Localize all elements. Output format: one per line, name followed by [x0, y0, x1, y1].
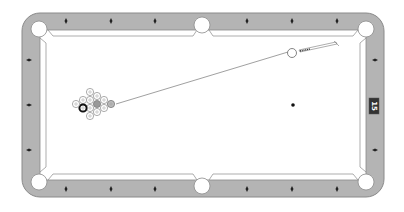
- pool-table[interactable]: 15: [0, 0, 404, 212]
- object-ball: [86, 88, 93, 95]
- pocket-bottom-right: [358, 174, 374, 190]
- object-ball: [93, 108, 100, 115]
- object-ball: [93, 92, 100, 99]
- pocket-bottom-left: [31, 174, 47, 190]
- head-ball: [107, 100, 114, 107]
- object-ball: [100, 96, 107, 103]
- object-ball: [86, 112, 93, 119]
- spot-marker: [291, 103, 295, 107]
- pocket-top-left: [31, 21, 47, 37]
- rail-badge: 15: [369, 98, 379, 114]
- object-ball: [72, 100, 79, 107]
- pocket-top-center: [194, 17, 210, 33]
- rail-badge-text: 15: [370, 101, 378, 111]
- pocket-top-right: [358, 21, 374, 37]
- eight-ball: [79, 104, 86, 111]
- object-ball: [86, 96, 93, 103]
- object-ball: [79, 96, 86, 103]
- object-ball: [100, 104, 107, 111]
- pocket-bottom-center: [194, 178, 210, 194]
- cue-ball[interactable]: [288, 49, 297, 58]
- striped-ball: [93, 100, 100, 107]
